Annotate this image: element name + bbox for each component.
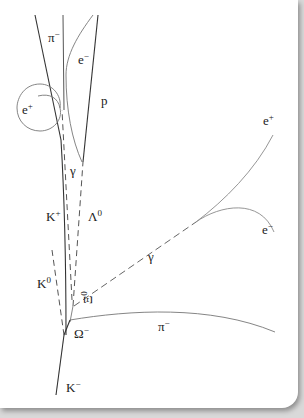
track-e-minus-top (66, 15, 93, 162)
label-proton: p (101, 94, 108, 107)
label-gamma-lower: γ (148, 250, 154, 263)
track-k-minus (56, 335, 64, 395)
label-e-plus-left: e+ (22, 102, 33, 116)
particle-tracks (0, 0, 298, 408)
label-e-plus-right: e+ (263, 113, 274, 127)
track-omega-minus (64, 320, 70, 335)
track-pi-minus-right (70, 312, 275, 332)
label-xi-zero: Ξ0 (80, 291, 94, 304)
label-k-minus: K− (66, 380, 80, 394)
track-vertical-top (63, 15, 64, 110)
label-lambda-zero: Λ0 (88, 209, 102, 223)
diagram-panel: π− e− e+ p γ K+ Λ0 e+ e− γ K0 Ξ0 Ω− π− K… (0, 0, 298, 408)
label-k-plus: K+ (46, 209, 60, 223)
label-pi-minus-top: π− (48, 30, 60, 44)
track-lambda-zero (73, 162, 83, 306)
label-k-zero: K0 (37, 276, 51, 290)
label-omega-minus: Ω− (74, 326, 89, 340)
label-gamma-upper: γ (70, 164, 76, 177)
track-k-zero (52, 250, 64, 335)
label-pi-minus-right: π− (158, 319, 170, 333)
label-e-minus-top: e− (78, 52, 89, 66)
track-e-plus-right (196, 135, 273, 222)
label-e-minus-right: e− (262, 222, 273, 236)
track-proton (83, 15, 98, 162)
